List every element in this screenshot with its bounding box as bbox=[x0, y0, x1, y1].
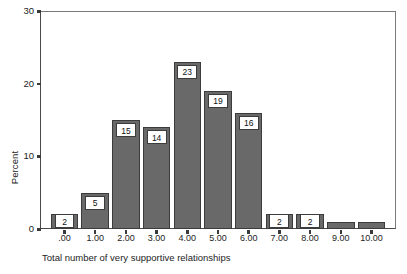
bar-data-label: 14 bbox=[147, 130, 167, 144]
bar bbox=[327, 222, 355, 229]
bar-data-label: 2 bbox=[269, 214, 289, 228]
bar bbox=[204, 91, 232, 229]
bar-data-label: 19 bbox=[208, 94, 228, 108]
y-tick-label: 30 bbox=[12, 6, 34, 16]
y-tick-label: 10 bbox=[12, 151, 34, 161]
x-axis-title: Total number of very supportive relation… bbox=[40, 252, 396, 263]
bar bbox=[174, 62, 202, 229]
bar-data-label: 23 bbox=[177, 65, 197, 79]
y-axis-tick-labels: 0102030 bbox=[10, 0, 34, 274]
y-tick-label: 20 bbox=[12, 79, 34, 89]
bar bbox=[358, 222, 386, 229]
y-tick-mark bbox=[37, 83, 41, 86]
bar-data-label: 15 bbox=[116, 123, 136, 137]
bar bbox=[235, 113, 263, 229]
y-tick-mark bbox=[37, 228, 41, 231]
bar-data-label: 16 bbox=[239, 116, 259, 130]
y-tick-label: 0 bbox=[12, 224, 34, 234]
y-tick-mark bbox=[37, 10, 41, 13]
y-tick-mark bbox=[37, 155, 41, 158]
bar-data-label: 2 bbox=[55, 214, 75, 228]
bar-data-label: 2 bbox=[300, 214, 320, 228]
bar-data-label: 5 bbox=[85, 196, 105, 210]
histogram-chart: Percent 0102030 25151423191622 .001.002.… bbox=[0, 0, 407, 274]
x-tick-label: 10.00 bbox=[351, 234, 391, 244]
